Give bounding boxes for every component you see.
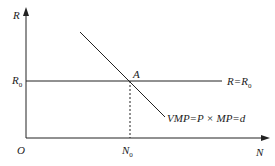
y-axis-label: R	[13, 10, 20, 21]
point-a-label: A	[133, 69, 140, 80]
demand-line-label: VMP=P × MP=d	[167, 113, 245, 124]
n0-label: N0	[122, 145, 133, 159]
x-axis-label: N	[256, 147, 263, 158]
horizontal-line-label: R=R0	[227, 76, 251, 90]
x-axis-arrow-icon	[261, 135, 270, 141]
y-axis-arrow-icon	[23, 7, 29, 16]
r0-label: R0	[12, 75, 22, 89]
origin-label: O	[17, 145, 25, 156]
vmp-demand-line	[80, 32, 165, 117]
